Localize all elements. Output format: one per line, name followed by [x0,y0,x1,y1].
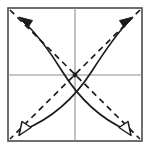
arrowhead-bottom-left-hollow [19,122,31,136]
diagram-canvas: Crossed curved arrows within a square wi… [0,0,151,150]
diagram-figure [0,0,151,150]
arrowhead-top-right-solid [120,17,134,28]
center-dot [73,73,78,78]
arrowhead-bottom-right-hollow [119,122,131,136]
